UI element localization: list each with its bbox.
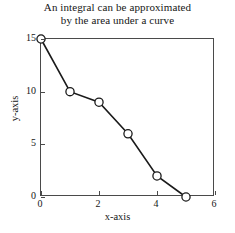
chart-title-line-1: An integral can be approximated	[0, 1, 235, 14]
data-series-line	[41, 39, 215, 197]
data-point-marker-1	[66, 88, 74, 96]
y-axis-label: y-axis	[9, 79, 20, 139]
x-tick-0	[41, 191, 42, 195]
x-tick-label-2: 4	[144, 198, 168, 209]
y-tick-label-3: 15	[14, 32, 36, 43]
x-tick-3	[215, 191, 216, 195]
x-axis-label: x-axis	[0, 211, 235, 222]
plot-area	[40, 38, 214, 196]
y-tick-3	[41, 39, 45, 40]
y-tick-label-1: 5	[14, 137, 36, 148]
data-point-marker-5	[182, 193, 190, 201]
data-point-marker-4	[153, 172, 161, 180]
y-tick-label-0: 0	[14, 190, 36, 201]
x-tick-2	[157, 191, 158, 195]
data-point-marker-3	[124, 130, 132, 138]
series-polyline	[41, 39, 186, 197]
y-tick-2	[41, 92, 45, 93]
x-tick-label-1: 2	[86, 198, 110, 209]
chart-title: An integral can be approximated by the a…	[0, 1, 235, 26]
chart-figure: An integral can be approximated by the a…	[0, 0, 235, 233]
x-tick-label-3: 6	[202, 198, 226, 209]
chart-title-line-2: by the area under a curve	[0, 14, 235, 27]
y-tick-1	[41, 144, 45, 145]
x-tick-1	[99, 191, 100, 195]
data-point-marker-2	[95, 98, 103, 106]
plot-inner	[41, 39, 213, 195]
